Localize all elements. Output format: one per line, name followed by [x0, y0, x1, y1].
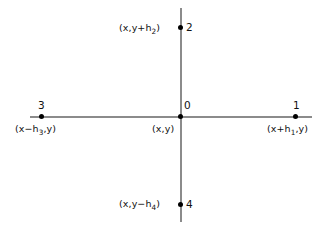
node-coordinate-4: (x,y−h4): [119, 199, 160, 211]
node-number-4: 4: [186, 199, 193, 210]
coord-suffix-3: ,y): [43, 123, 56, 134]
node-dot-4: [178, 202, 183, 207]
coord-prefix-2: (x,y+h: [119, 22, 152, 33]
coord-suffix-1: ,y): [295, 123, 308, 134]
coord-suffix-2: ): [156, 22, 160, 33]
node-number-3: 3: [38, 100, 45, 111]
coord-prefix-4: (x,y−h: [119, 198, 152, 209]
node-dot-0: [178, 114, 183, 119]
node-coordinate-1: (x+h1,y): [267, 124, 308, 136]
stencil-diagram: 2 (x,y+h2) 3 (x−h3,y) 0 (x,y) 1 (x+h1,y)…: [0, 0, 331, 230]
coord-prefix-1: (x+h: [267, 123, 291, 134]
node-number-1: 1: [293, 100, 300, 111]
node-coordinate-3: (x−h3,y): [15, 124, 56, 136]
node-dot-2: [178, 25, 183, 30]
node-dot-1: [293, 114, 298, 119]
coord-suffix-4: ): [156, 198, 160, 209]
horizontal-axis-line: [30, 116, 312, 118]
node-number-0: 0: [184, 100, 191, 111]
node-coordinate-0: (x,y): [152, 124, 174, 136]
coord-prefix-3: (x−h: [15, 123, 39, 134]
coord-prefix-0: (x,y: [152, 123, 170, 134]
node-coordinate-2: (x,y+h2): [119, 23, 160, 35]
coord-suffix-0: ): [170, 123, 174, 134]
node-dot-3: [39, 114, 44, 119]
node-number-2: 2: [186, 22, 193, 33]
